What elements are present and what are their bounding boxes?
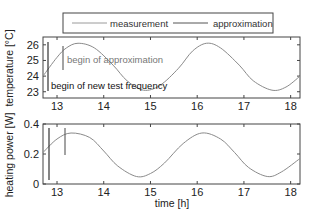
x-ticks: 131415161718: [51, 124, 297, 198]
x-ticks: 131415161718: [51, 37, 297, 112]
x-tick-label: 14: [98, 100, 110, 112]
y-tick-label: 25: [27, 54, 39, 66]
heating-power-curve: [43, 133, 300, 177]
x-tick-label: 17: [238, 100, 250, 112]
annotation-new-frequency: begin of new test frequency: [51, 80, 167, 91]
annotation-begin-approximation: begin of approximation: [67, 54, 163, 65]
y-tick-label: 26: [27, 39, 39, 51]
x-tick-label: 13: [51, 100, 63, 112]
heating-power-plot: 131415161718 00.20.4 heating power [W] t…: [3, 113, 300, 209]
legend: measurement approximation: [63, 13, 273, 33]
y-tick-label: 0.2: [24, 148, 39, 160]
y-tick-label: 23: [27, 86, 39, 98]
x-tick-label: 17: [238, 186, 250, 198]
x-axis-label-time: time [h]: [155, 197, 190, 209]
legend-label-approximation: approximation: [213, 18, 273, 29]
y-axis-label-temperature: temperature [°C]: [3, 29, 15, 106]
x-tick-label: 13: [51, 186, 63, 198]
x-tick-label: 15: [144, 100, 156, 112]
legend-label-measurement: measurement: [110, 18, 168, 29]
y-tick-label: 0.4: [24, 118, 39, 130]
x-tick-label: 16: [191, 186, 203, 198]
x-tick-label: 18: [285, 100, 297, 112]
chart-canvas: measurement approximation 131415161718 2…: [0, 0, 313, 220]
temperature-plot: 131415161718 23242526 begin of approxima…: [3, 29, 300, 112]
x-tick-label: 14: [98, 186, 110, 198]
x-tick-label: 16: [191, 100, 203, 112]
x-tick-label: 18: [285, 186, 297, 198]
y-axis-label-heating-power: heating power [W]: [3, 113, 15, 198]
y-tick-label: 24: [27, 70, 39, 82]
y-tick-label: 0: [33, 178, 39, 190]
